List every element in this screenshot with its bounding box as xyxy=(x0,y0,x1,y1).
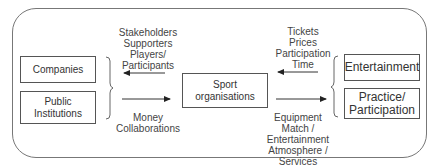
arrows-and-braces xyxy=(0,0,441,166)
left-brace-icon xyxy=(106,57,113,119)
right-brace-icon xyxy=(331,56,338,117)
